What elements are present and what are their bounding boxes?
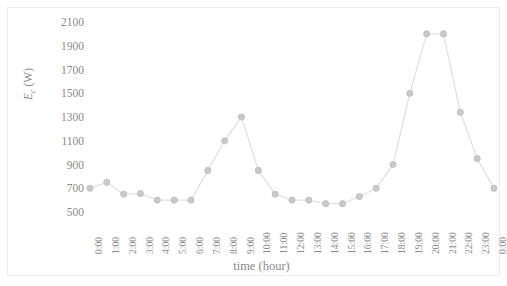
y-axis-tick-label: 1900 bbox=[61, 40, 84, 52]
x-axis-tick-label: 13:00 bbox=[313, 232, 323, 254]
x-axis-tick-label: 11:00 bbox=[279, 233, 289, 254]
x-axis-tick-label: 1:00 bbox=[111, 237, 121, 254]
data-point-marker[interactable] bbox=[306, 197, 312, 203]
x-axis-tick-label: 21:00 bbox=[448, 232, 458, 254]
data-point-marker[interactable] bbox=[104, 179, 110, 185]
x-axis-tick-label: 7:00 bbox=[212, 237, 222, 254]
y-axis-tick-label: 900 bbox=[67, 159, 84, 171]
y-axis-tick-label: 1700 bbox=[61, 64, 84, 76]
x-axis-tick-label: 0:00 bbox=[498, 237, 507, 254]
data-point-marker[interactable] bbox=[154, 197, 160, 203]
data-point-marker[interactable] bbox=[323, 201, 329, 207]
data-point-marker[interactable] bbox=[272, 191, 278, 197]
x-axis-tick-label: 14:00 bbox=[330, 232, 340, 254]
y-axis-title-subscript: c bbox=[28, 89, 37, 93]
line-series-svg bbox=[86, 22, 498, 212]
chart-figure: Ec (W) 500700900110013001500170019002100… bbox=[0, 0, 507, 286]
y-axis-tick-label: 700 bbox=[67, 182, 84, 194]
y-axis-tick-label: 500 bbox=[67, 206, 84, 218]
data-point-marker[interactable] bbox=[238, 114, 244, 120]
series-line bbox=[90, 34, 494, 204]
x-axis-tick-label: 12:00 bbox=[296, 232, 306, 254]
data-point-marker[interactable] bbox=[339, 201, 345, 207]
y-axis-title: Ec (W) bbox=[22, 68, 37, 100]
x-axis-tick-label: 16:00 bbox=[363, 232, 373, 254]
x-axis-tick-label: 23:00 bbox=[481, 232, 491, 254]
data-point-marker[interactable] bbox=[289, 197, 295, 203]
y-axis-tick-label: 1300 bbox=[61, 111, 84, 123]
x-axis-tick-label: 19:00 bbox=[414, 232, 424, 254]
plot-area bbox=[86, 22, 498, 212]
x-axis-tick-label: 2:00 bbox=[128, 237, 138, 254]
y-axis-tick-labels: 500700900110013001500170019002100 bbox=[48, 22, 84, 212]
y-axis-tick-label: 1500 bbox=[61, 87, 84, 99]
x-axis-tick-label: 3:00 bbox=[145, 237, 155, 254]
data-point-marker[interactable] bbox=[137, 190, 143, 196]
data-point-marker[interactable] bbox=[390, 161, 396, 167]
x-axis-tick-labels: 0:001:002:003:004:005:006:007:008:009:00… bbox=[86, 214, 498, 258]
data-point-marker[interactable] bbox=[356, 193, 362, 199]
data-point-marker[interactable] bbox=[491, 185, 497, 191]
y-axis-tick-label: 1100 bbox=[61, 135, 84, 147]
y-axis-title-unit: (W) bbox=[22, 68, 34, 89]
y-axis-title-base: E bbox=[22, 93, 34, 100]
x-axis-tick-label: 0:00 bbox=[94, 237, 104, 254]
data-point-marker[interactable] bbox=[222, 138, 228, 144]
x-axis-title: time (hour) bbox=[8, 259, 507, 274]
data-point-marker[interactable] bbox=[474, 155, 480, 161]
x-axis-tick-label: 20:00 bbox=[431, 232, 441, 254]
x-axis-tick-label: 22:00 bbox=[464, 232, 474, 254]
data-point-marker[interactable] bbox=[121, 191, 127, 197]
data-point-marker[interactable] bbox=[255, 167, 261, 173]
data-point-marker[interactable] bbox=[188, 197, 194, 203]
chart-frame: Ec (W) 500700900110013001500170019002100… bbox=[7, 7, 500, 276]
x-axis-tick-label: 18:00 bbox=[397, 232, 407, 254]
data-point-marker[interactable] bbox=[424, 31, 430, 37]
x-axis-tick-label: 10:00 bbox=[262, 232, 272, 254]
x-axis-tick-label: 4:00 bbox=[161, 237, 171, 254]
y-axis-tick-label: 2100 bbox=[61, 16, 84, 28]
data-point-marker[interactable] bbox=[440, 31, 446, 37]
data-point-marker[interactable] bbox=[373, 185, 379, 191]
x-axis-tick-label: 8:00 bbox=[229, 237, 239, 254]
data-point-marker[interactable] bbox=[171, 197, 177, 203]
data-point-marker[interactable] bbox=[457, 109, 463, 115]
x-axis-tick-label: 15:00 bbox=[347, 232, 357, 254]
x-axis-tick-label: 6:00 bbox=[195, 237, 205, 254]
data-point-marker[interactable] bbox=[87, 185, 93, 191]
x-axis-tick-label: 5:00 bbox=[178, 237, 188, 254]
data-point-marker[interactable] bbox=[205, 167, 211, 173]
x-axis-tick-label: 17:00 bbox=[380, 232, 390, 254]
data-point-marker[interactable] bbox=[407, 90, 413, 96]
x-axis-tick-label: 9:00 bbox=[246, 237, 256, 254]
